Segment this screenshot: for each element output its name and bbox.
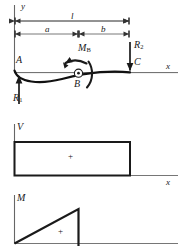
- beam-diagram-figure: y l a b MB R2 C A B R1 x V + x M +: [0, 0, 178, 248]
- hinge-symbol-b: [74, 69, 82, 77]
- point-label-b: B: [74, 79, 80, 89]
- axis-label-m: M: [17, 193, 25, 203]
- moment-label-subscript: B: [86, 46, 91, 53]
- shear-sign-plus: +: [68, 152, 73, 161]
- axis-label-v: V: [17, 122, 23, 132]
- reaction-r2-subscript: 2: [140, 43, 143, 50]
- dimension-label-b: b: [101, 25, 106, 34]
- point-label-c: C: [134, 57, 141, 67]
- dimension-label-l: l: [71, 12, 74, 21]
- point-label-a: A: [16, 55, 22, 65]
- free-body-diagram: [14, 5, 178, 104]
- figure-canvas: [0, 0, 178, 248]
- moment-diagram: [14, 195, 178, 246]
- moment-label-mb: MB: [78, 43, 91, 54]
- reaction-label-r1: R1: [13, 93, 23, 104]
- moment-sign-plus: +: [58, 227, 63, 236]
- dimension-label-a: a: [45, 25, 50, 34]
- axis-label-y: y: [21, 2, 25, 11]
- moment-area-triangle: [15, 209, 79, 246]
- reaction-r1-subscript: 1: [19, 96, 22, 103]
- reaction-label-r2: R2: [134, 40, 144, 51]
- shear-diagram: [14, 124, 178, 176]
- axis-label-x-shear: x: [166, 178, 170, 187]
- axis-label-x-beam: x: [166, 62, 170, 71]
